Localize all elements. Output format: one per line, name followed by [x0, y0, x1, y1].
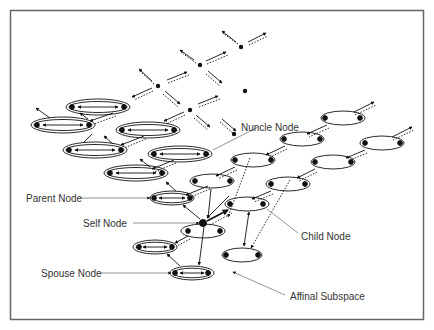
- child-node-label: Child Node: [301, 231, 351, 242]
- spouse-node: [170, 266, 214, 280]
- couple-node: [148, 146, 212, 162]
- child-node: [225, 197, 269, 211]
- couple-node: [66, 99, 130, 115]
- self-node-label: Self Node: [83, 218, 127, 229]
- couple-node: [116, 122, 180, 138]
- kinship-lattice-diagram: Nuncle Node Parent Node Self Node Child …: [0, 0, 434, 330]
- couple-node: [190, 174, 234, 188]
- leader-lines: [80, 127, 298, 295]
- couple-node: [63, 142, 127, 158]
- parent-node: [150, 191, 194, 205]
- affinal-subspace-label: Affinal Subspace: [290, 291, 365, 302]
- couple-node: [133, 240, 177, 254]
- self-node: [199, 219, 206, 226]
- spouse-node-label: Spouse Node: [41, 268, 102, 279]
- couple-node: [231, 153, 275, 167]
- upper-lattice: [132, 31, 268, 136]
- nuncle-couple-node: [280, 132, 324, 146]
- couple-node: [104, 165, 168, 181]
- affinal-couple-node: [222, 248, 262, 262]
- couple-node: [31, 117, 95, 133]
- parent-node-label: Parent Node: [26, 193, 83, 204]
- nuncle-node-label: Nuncle Node: [241, 122, 299, 133]
- arrow-pair: [132, 31, 268, 134]
- couple-node: [360, 136, 404, 150]
- couple-nodes: [31, 99, 404, 280]
